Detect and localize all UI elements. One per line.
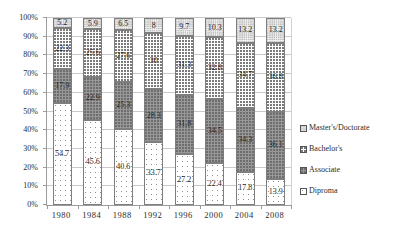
segment-value-label: 31.3 [177, 61, 191, 69]
category-slot-1992: 33.728.3308 [139, 18, 170, 205]
y-axis-tick-label: 90% [23, 33, 38, 41]
segment-value-label: 27.6 [116, 52, 130, 60]
bar-segment-master-s-doctorate: 13.2 [266, 18, 285, 43]
segment-value-label: 32.8 [208, 64, 222, 72]
bar-segment-diproma: 13.9 [266, 179, 285, 205]
category-slot-2004: 17.834.334.713.2 [230, 18, 261, 205]
x-axis-label: 1988 [113, 211, 132, 220]
bar-segment-bachelor-s: 36.8 [266, 43, 285, 112]
x-axis-label: 2000 [204, 211, 223, 220]
y-axis: 0%10%20%30%40%50%60%70%80%90%100% [0, 18, 42, 205]
bar-segment-bachelor-s: 25.6 [83, 29, 102, 77]
bar-segment-diproma: 22.4 [205, 163, 224, 205]
y-axis-tick-label: 10% [23, 182, 38, 190]
y-axis-tick-label: 60% [23, 89, 38, 97]
category-slot-1988: 40.625.327.66.5 [108, 18, 139, 205]
y-axis-tick-label: 0% [27, 201, 38, 209]
legend: Master's/DoctorateBachelor'sAssociateDip… [300, 124, 370, 195]
category-slot-1984: 45.622.925.65.9 [78, 18, 109, 205]
segment-value-label: 33.7 [147, 169, 161, 177]
x-axis-label: 1996 [174, 211, 193, 220]
segment-value-label: 34.7 [238, 71, 252, 79]
legend-label: Associate [309, 166, 340, 174]
x-axis-label: 1984 [82, 211, 101, 220]
segment-value-label: 40.6 [116, 163, 130, 171]
bar-segment-diproma: 45.6 [83, 120, 102, 205]
segment-value-label: 17.8 [238, 184, 252, 192]
bar-segment-diproma: 27.2 [175, 154, 194, 205]
segment-value-label: 13.9 [269, 188, 283, 196]
bar-segment-master-s-doctorate: 5.2 [53, 18, 72, 28]
x-axis-label: 2004 [235, 211, 254, 220]
segment-value-label: 8 [152, 22, 156, 30]
bachelor-s-legend-marker [300, 146, 307, 153]
bar-segment-bachelor-s: 34.7 [236, 43, 255, 108]
plot-area: 54.717.922.35.245.622.925.65.940.625.327… [46, 18, 292, 206]
bar-1988: 40.625.327.66.5 [114, 18, 133, 205]
master-s-doctorate-legend-marker [300, 125, 307, 132]
segment-value-label: 28.3 [147, 112, 161, 120]
segment-value-label: 30 [150, 57, 158, 65]
bar-1996: 27.231.831.39.7 [175, 18, 194, 205]
segment-value-label: 17.9 [55, 82, 69, 90]
bar-segment-bachelor-s: 30 [144, 33, 163, 89]
legend-item-diproma: Diproma [300, 187, 370, 195]
bar-segment-diproma: 54.7 [53, 103, 72, 205]
bar-2004: 17.834.334.713.2 [236, 18, 255, 205]
y-axis-tick-label: 80% [23, 51, 38, 59]
diproma-legend-marker [300, 188, 307, 195]
bar-segment-diproma: 17.8 [236, 172, 255, 205]
segment-value-label: 13.2 [238, 26, 252, 34]
x-axis-label: 1992 [143, 211, 162, 220]
x-axis-tick [169, 205, 170, 209]
bar-segment-associate: 31.8 [175, 95, 194, 154]
segment-value-label: 54.7 [55, 150, 69, 158]
x-axis-tick [261, 205, 262, 209]
category-slot-2008: 13.936.136.813.2 [261, 18, 292, 205]
y-axis-tick-label: 50% [23, 108, 38, 116]
stacked-bar-chart-figure: 0%10%20%30%40%50%60%70%80%90%100% 54.717… [0, 0, 399, 238]
y-axis-tick-label: 100% [19, 14, 38, 22]
bar-segment-master-s-doctorate: 6.5 [114, 18, 133, 30]
segment-value-label: 36.8 [269, 73, 283, 81]
category-slot-2000: 22.434.532.810.3 [200, 18, 231, 205]
x-axis-label: 1980 [52, 211, 71, 220]
bar-segment-master-s-doctorate: 8 [144, 18, 163, 33]
bar-segment-master-s-doctorate: 10.3 [205, 18, 224, 37]
bar-segment-master-s-doctorate: 9.7 [175, 18, 194, 36]
bar-segment-diproma: 33.7 [144, 142, 163, 205]
segment-value-label: 22.4 [208, 180, 222, 188]
bar-segment-diproma: 40.6 [114, 129, 133, 205]
bar-1980: 54.717.922.35.2 [53, 18, 72, 205]
bar-segment-associate: 22.9 [83, 77, 102, 120]
category-slot-1980: 54.717.922.35.2 [47, 18, 78, 205]
segment-value-label: 25.6 [86, 49, 100, 57]
bar-segment-associate: 28.3 [144, 89, 163, 142]
x-axis-tick [47, 205, 48, 209]
segment-value-label: 22.3 [55, 45, 69, 53]
segment-value-label: 5.9 [88, 20, 98, 28]
legend-label: Diproma [309, 187, 337, 195]
x-axis-tick [230, 205, 231, 209]
segment-value-label: 13.2 [269, 26, 283, 34]
y-axis-tick-label: 40% [23, 126, 38, 134]
segment-value-label: 34.3 [238, 136, 252, 144]
bar-segment-associate: 25.3 [114, 82, 133, 129]
segment-value-label: 22.9 [86, 94, 100, 102]
segment-value-label: 27.2 [177, 176, 191, 184]
bar-segment-associate: 34.5 [205, 99, 224, 164]
segment-value-label: 25.3 [116, 101, 130, 109]
bar-segment-bachelor-s: 32.8 [205, 37, 224, 98]
x-axis-label: 2008 [265, 211, 284, 220]
bar-segment-master-s-doctorate: 13.2 [236, 18, 255, 43]
x-axis-tick [139, 205, 140, 209]
legend-item-bachelor-s: Bachelor's [300, 145, 370, 153]
bar-segment-bachelor-s: 27.6 [114, 30, 133, 82]
y-axis-tick-label: 70% [23, 70, 38, 78]
legend-item-master-s-doctorate: Master's/Doctorate [300, 124, 370, 132]
segment-value-label: 5.2 [57, 19, 67, 27]
bar-2000: 22.434.532.810.3 [205, 18, 224, 205]
associate-legend-marker [300, 167, 307, 174]
x-axis: 19801984198819921996200020042008 [46, 211, 290, 223]
bar-segment-master-s-doctorate: 5.9 [83, 18, 102, 29]
